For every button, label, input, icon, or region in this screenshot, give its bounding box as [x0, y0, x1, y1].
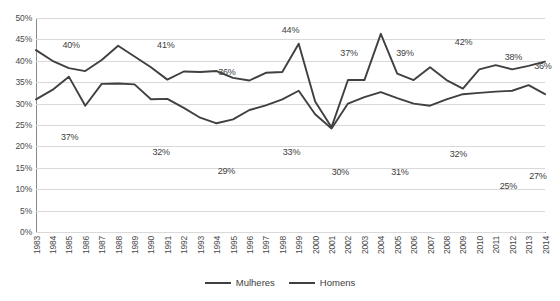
x-axis-tick: 2002	[343, 236, 353, 254]
plot-area: 40%37%41%32%36%29%44%33%37%30%39%31%42%3…	[36, 18, 545, 232]
legend-item-homens[interactable]: Homens	[289, 277, 355, 288]
x-axis-tick: 1999	[294, 236, 304, 254]
x-axis-tick: 1992	[179, 236, 189, 254]
data-label: 42%	[455, 37, 472, 47]
series-lines	[36, 18, 545, 232]
y-axis-tick: 0%	[20, 227, 32, 237]
y-axis: 50%45%40%35%30%25%20%15%10%5%0%	[0, 0, 34, 301]
data-label: 31%	[391, 167, 408, 177]
x-axis-tick: 2005	[393, 236, 403, 254]
x-axis-tick: 1993	[196, 236, 206, 254]
y-axis-tick: 20%	[16, 141, 32, 151]
x-axis-tick: 2012	[508, 236, 518, 254]
x-axis-tick: 1997	[261, 236, 271, 254]
y-axis-tick: 45%	[16, 34, 32, 44]
x-axis-tick: 1986	[81, 236, 91, 254]
x-axis-tick: 2014	[541, 236, 551, 254]
x-axis-tick: 2007	[426, 236, 436, 254]
x-axis-tick: 1995	[229, 236, 239, 254]
y-axis-tick: 40%	[16, 56, 32, 66]
x-axis-tick: 1996	[245, 236, 255, 254]
y-axis-tick: 25%	[16, 120, 32, 130]
data-label: 38%	[505, 52, 522, 62]
data-label: 40%	[62, 40, 79, 50]
x-axis-tick: 1991	[163, 236, 173, 254]
data-label: 33%	[283, 147, 300, 157]
data-label: 39%	[396, 48, 413, 58]
data-label: 25%	[500, 181, 517, 191]
x-axis-tick: 2013	[524, 236, 534, 254]
data-label: 44%	[282, 25, 299, 35]
data-label: 27%	[529, 171, 546, 181]
x-axis-tick: 2004	[376, 236, 386, 254]
y-axis-tick: 15%	[16, 163, 32, 173]
y-axis-tick: 10%	[16, 184, 32, 194]
data-label: 36%	[218, 67, 235, 77]
x-axis-tick: 1998	[278, 236, 288, 254]
x-axis-tick: 2010	[475, 236, 485, 254]
legend-line-swatch	[289, 282, 315, 284]
data-label: 36%	[534, 61, 551, 71]
data-label: 29%	[218, 166, 235, 176]
x-axis: 1983198419851986198719881989199019911992…	[36, 236, 546, 280]
x-axis-tick: 1984	[48, 236, 58, 254]
x-axis-tick: 1994	[212, 236, 222, 254]
gridline	[36, 232, 545, 233]
data-label: 30%	[332, 167, 349, 177]
y-axis-tick: 35%	[16, 77, 32, 87]
y-axis-tick: 5%	[20, 206, 32, 216]
legend-item-mulheres[interactable]: Mulheres	[205, 277, 275, 288]
chart-legend: MulheresHomens	[0, 277, 560, 288]
x-axis-tick: 1985	[64, 236, 74, 254]
legend-label: Mulheres	[236, 277, 275, 288]
series-line-mulheres	[36, 34, 545, 127]
data-label: 32%	[450, 149, 467, 159]
x-axis-tick: 2006	[409, 236, 419, 254]
line-chart: 50%45%40%35%30%25%20%15%10%5%0% 40%37%41…	[0, 0, 560, 301]
x-axis-tick: 1983	[32, 236, 42, 254]
legend-line-swatch	[205, 282, 231, 284]
data-label: 41%	[157, 40, 174, 50]
y-axis-tick: 30%	[16, 99, 32, 109]
x-axis-tick: 2000	[311, 236, 321, 254]
data-label: 37%	[340, 48, 357, 58]
x-axis-tick: 2009	[458, 236, 468, 254]
x-axis-tick: 1989	[130, 236, 140, 254]
x-axis-tick: 2008	[442, 236, 452, 254]
x-axis-tick: 2001	[327, 236, 337, 254]
data-label: 37%	[61, 132, 78, 142]
x-axis-tick: 2003	[360, 236, 370, 254]
x-axis-tick: 1987	[97, 236, 107, 254]
x-axis-tick: 2011	[491, 236, 501, 253]
series-line-homens	[36, 77, 545, 129]
y-axis-tick: 50%	[16, 13, 32, 23]
legend-label: Homens	[320, 277, 355, 288]
x-axis-tick: 1990	[146, 236, 156, 254]
x-axis-tick: 1988	[114, 236, 124, 254]
data-label: 32%	[152, 147, 169, 157]
